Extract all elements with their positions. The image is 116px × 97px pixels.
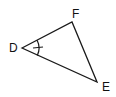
vertex-label-d: D [9,41,18,55]
triangle-diagram: D F E [0,0,116,97]
angle-tick-d [33,47,43,48]
vertex-label-e: E [102,80,110,94]
triangle-def [22,22,97,82]
triangle-svg: D F E [0,0,116,97]
vertex-label-f: F [72,7,79,21]
